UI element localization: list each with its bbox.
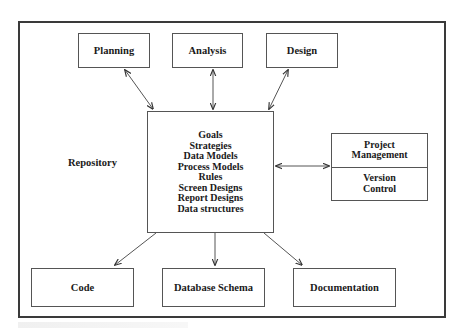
arrow-central-documentation [264, 233, 302, 265]
connector-arrows [0, 0, 464, 334]
arrow-design-central [269, 70, 288, 109]
arrow-central-code [115, 233, 156, 265]
arrow-planning-central [125, 70, 153, 109]
figure-caption-illegible [18, 322, 188, 328]
